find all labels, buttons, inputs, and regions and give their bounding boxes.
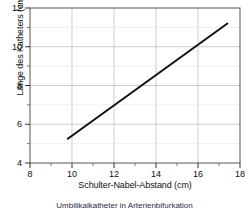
x-tick-label-12: 12 [109, 169, 119, 179]
x-axis-title: Schulter-Nabel-Abstand (cm) [30, 180, 240, 190]
y-tick-label-6: 6 [17, 119, 22, 129]
y-tick-label-12: 12 [12, 3, 22, 13]
y-tick-label-4: 4 [17, 158, 22, 168]
x-tick-label-14: 14 [151, 169, 161, 179]
figure-caption: Umbilikalkatheter in Arterienbifurkation [0, 201, 249, 210]
x-tick-label-10: 10 [67, 169, 77, 179]
x-tick-label-8: 8 [27, 169, 32, 179]
line-chart-plot: 4 6 8 10 12 8 10 12 14 16 18 [0, 0, 249, 210]
x-tick-label-18: 18 [235, 169, 245, 179]
y-tick-label-8: 8 [17, 81, 22, 91]
y-axis-major-ticks [25, 8, 30, 163]
x-tick-label-16: 16 [193, 169, 203, 179]
figure-container: Länge des Katheters (cm) [0, 0, 249, 210]
y-tick-label-10: 10 [12, 42, 22, 52]
